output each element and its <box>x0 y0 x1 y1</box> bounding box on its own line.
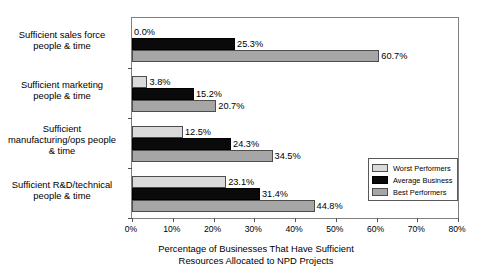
x-axis-tick-label: 20% <box>193 224 233 234</box>
x-axis-tick-label: 30% <box>233 224 273 234</box>
x-axis-tick-label: 80% <box>437 224 477 234</box>
category-label-line: Sufficient <box>0 123 124 134</box>
bar-value-label: 23.1% <box>226 177 254 187</box>
bar-worst <box>132 76 147 88</box>
category-label-line: people & time <box>0 40 124 51</box>
legend-item-worst: Worst Performers <box>372 162 454 174</box>
category-axis-labels: Sufficient sales force people & time Suf… <box>0 17 128 219</box>
x-axis-tick <box>132 218 133 222</box>
legend-label: Worst Performers <box>393 164 451 173</box>
axis-title-line: Percentage of Businesses That Have Suffi… <box>96 243 416 255</box>
x-axis-tick-label: 10% <box>152 224 192 234</box>
bar-row: 3.8% <box>132 76 458 88</box>
bar-row: 25.3% <box>132 38 458 50</box>
x-axis-tick <box>295 218 296 222</box>
legend-swatch-icon <box>372 164 388 172</box>
legend-swatch-icon <box>372 176 388 184</box>
bar-group: 3.8%15.2%20.7% <box>132 68 458 118</box>
legend: Worst Performers Average Business Best P… <box>368 158 458 201</box>
bar-value-label: 20.7% <box>216 101 244 111</box>
category-label-sales-force: Sufficient sales force people & time <box>0 29 124 51</box>
x-axis-tick-label: 40% <box>274 224 314 234</box>
bar-worst <box>132 176 226 188</box>
bar-avg <box>132 38 235 50</box>
legend-label: Average Business <box>393 176 452 185</box>
bar-best <box>132 100 216 112</box>
x-axis-tick <box>417 218 418 222</box>
bar-value-label: 3.8% <box>147 77 170 87</box>
category-label-line: people & time <box>0 190 124 201</box>
legend-label: Best Performers <box>393 188 446 197</box>
category-label-line: people & time <box>0 90 124 101</box>
bar-row: 0.0% <box>132 26 458 38</box>
bar-best <box>132 50 379 62</box>
bar-avg <box>132 188 260 200</box>
x-axis-tick-label: 60% <box>356 224 396 234</box>
bar-value-label: 25.3% <box>235 39 263 49</box>
x-axis-tick-label: 70% <box>396 224 436 234</box>
bar-best <box>132 200 315 212</box>
x-axis-tick <box>173 218 174 222</box>
legend-swatch-icon <box>372 188 388 196</box>
bar-avg <box>132 88 194 100</box>
x-axis-tick <box>377 218 378 222</box>
bar-value-label: 15.2% <box>194 89 222 99</box>
x-axis-tick <box>458 218 459 222</box>
category-label-manufacturing: Sufficient manufacturing/ops people & ti… <box>0 123 124 157</box>
bar-row: 20.7% <box>132 100 458 112</box>
category-label-line: Sufficient marketing <box>0 79 124 90</box>
category-label-rd-technical: Sufficient R&D/technical people & time <box>0 179 124 201</box>
bar-avg <box>132 138 231 150</box>
x-axis-tick <box>336 218 337 222</box>
bar-row: 15.2% <box>132 88 458 100</box>
bar-row: 44.8% <box>132 200 458 212</box>
bar-row: 12.5% <box>132 126 458 138</box>
bar-row: 60.7% <box>132 50 458 62</box>
category-label-line: manufacturing/ops people <box>0 134 124 145</box>
bar-worst <box>132 126 183 138</box>
category-label-line: & time <box>0 145 124 156</box>
bar-value-label: 24.3% <box>231 139 259 149</box>
x-axis-tick-label: 50% <box>315 224 355 234</box>
bar-value-label: 60.7% <box>379 51 407 61</box>
x-axis-tick <box>254 218 255 222</box>
category-label-marketing: Sufficient marketing people & time <box>0 79 124 101</box>
category-label-line: Sufficient sales force <box>0 29 124 40</box>
bar-value-label: 34.5% <box>273 151 301 161</box>
bar-best <box>132 150 273 162</box>
legend-item-average: Average Business <box>372 174 454 186</box>
bar-value-label: 31.4% <box>260 189 288 199</box>
x-axis-tick <box>214 218 215 222</box>
axis-title-line: Resources Allocated to NPD Projects <box>96 255 416 267</box>
bar-row: 24.3% <box>132 138 458 150</box>
x-axis-tick-label: 0% <box>111 224 151 234</box>
category-label-line: Sufficient R&D/technical <box>0 179 124 190</box>
bar-value-label: 44.8% <box>315 201 343 211</box>
bar-value-label: 0.0% <box>132 27 155 37</box>
legend-item-best: Best Performers <box>372 186 454 198</box>
bar-group: 0.0%25.3%60.7% <box>132 18 458 68</box>
bar-chart: Sufficient sales force people & time Suf… <box>0 0 483 277</box>
bar-value-label: 12.5% <box>183 127 211 137</box>
x-axis-title: Percentage of Businesses That Have Suffi… <box>96 243 416 266</box>
